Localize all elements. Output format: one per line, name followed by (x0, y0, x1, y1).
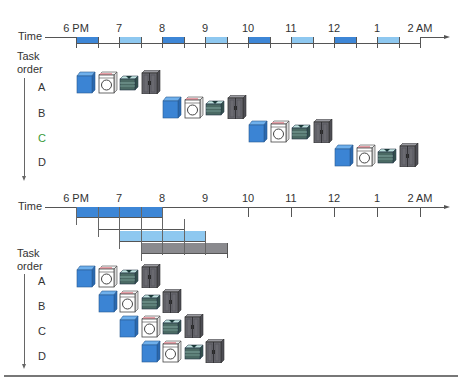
closet-icon (313, 119, 333, 143)
hour-label: 11 (285, 193, 296, 204)
folding-table-icon (291, 119, 311, 143)
task-label: Task (17, 248, 40, 259)
folding-table-icon (119, 264, 139, 288)
gantt-divider (162, 231, 163, 243)
closet-icon (227, 95, 247, 119)
gantt-divider (184, 219, 185, 231)
gantt-divider (98, 207, 99, 219)
tick-mark (377, 37, 378, 48)
washer-icon (98, 289, 118, 313)
gantt-divider (184, 231, 185, 243)
closet-icon (141, 70, 161, 94)
tick-mark (291, 37, 292, 48)
closet-icon (399, 143, 419, 167)
hour-label: 12 (328, 23, 340, 34)
task-d-label: D (38, 157, 46, 168)
tick-mark (184, 37, 185, 48)
closet-icon (141, 264, 161, 288)
washer-icon (334, 143, 354, 167)
washer-icon (248, 119, 268, 143)
closet-icon (205, 339, 225, 363)
folding-table-icon (141, 289, 161, 313)
tick-mark (205, 37, 206, 48)
dryer-icon (98, 70, 118, 94)
hour-label: 7 (116, 23, 122, 34)
task-order-arrow-icon (22, 176, 26, 181)
time-segment (227, 37, 250, 44)
time-segment (119, 37, 142, 44)
task-a-label: A (38, 82, 45, 93)
tick-mark (98, 37, 99, 48)
closet-icon (162, 289, 182, 313)
task-c-label: C (38, 133, 46, 144)
time-segment (356, 37, 379, 44)
hour-label: 8 (159, 23, 165, 34)
gantt-divider (205, 243, 206, 255)
task-b-label: B (38, 301, 45, 312)
gantt-divider (98, 219, 99, 237)
time-segment (270, 37, 293, 44)
folding-table-icon (184, 339, 204, 363)
tick-mark (334, 207, 335, 217)
tick-mark (270, 37, 271, 48)
hour-label: 12 (328, 193, 340, 204)
tick-mark (119, 37, 120, 48)
folding-table-icon (205, 95, 225, 119)
tick-mark (248, 207, 249, 217)
time-segment (98, 37, 121, 44)
task-a-label: A (38, 276, 45, 287)
gantt-divider (119, 219, 120, 231)
time-segment (377, 37, 400, 44)
washer-icon (119, 314, 139, 338)
hour-label: 2 AM (407, 23, 432, 34)
dryer-icon (141, 314, 161, 338)
gantt-divider (162, 243, 163, 255)
dryer-icon (184, 95, 204, 119)
washer-icon (76, 70, 96, 94)
tick-mark (76, 37, 77, 48)
time-segment (334, 37, 357, 44)
time-segment (399, 37, 422, 44)
hour-label: 1 (374, 193, 380, 204)
tick-mark (420, 207, 421, 217)
order-label: order (17, 64, 43, 75)
time-segment (184, 37, 207, 44)
hour-label: 9 (202, 23, 208, 34)
time-segment (76, 37, 99, 44)
hour-label: 6 PM (63, 193, 89, 204)
hour-label: 10 (242, 23, 254, 34)
washer-icon (162, 95, 182, 119)
tick-mark (356, 37, 357, 48)
task-order-arrow-icon (22, 364, 26, 369)
order-label: order (17, 261, 43, 272)
gantt-divider (141, 231, 142, 243)
task-order-arrow (24, 274, 25, 364)
tick-mark (334, 37, 335, 48)
tick-mark (291, 207, 292, 217)
gantt-divider (141, 219, 142, 231)
tick-mark (399, 37, 400, 48)
gantt-divider (76, 207, 77, 225)
tick-mark (162, 37, 163, 48)
tick-mark (248, 37, 249, 48)
dryer-icon (98, 264, 118, 288)
task-d-label: D (38, 351, 46, 362)
dryer-icon (270, 119, 290, 143)
hour-label: 1 (374, 23, 380, 34)
hour-label: 2 AM (407, 193, 432, 204)
gantt-divider (119, 207, 120, 219)
gantt-divider (162, 207, 163, 219)
tick-mark (227, 243, 228, 258)
gantt-divider (205, 231, 206, 243)
tick-mark (420, 37, 421, 48)
task-order-arrow (24, 78, 25, 176)
hour-label: 7 (116, 193, 122, 204)
hour-label: 10 (242, 193, 254, 204)
time-segment (291, 37, 314, 44)
hour-label: 11 (285, 23, 296, 34)
time-segment (313, 37, 336, 44)
time-segment (248, 37, 271, 44)
tick-mark (227, 37, 228, 48)
tick-mark (313, 37, 314, 48)
dryer-icon (356, 143, 376, 167)
